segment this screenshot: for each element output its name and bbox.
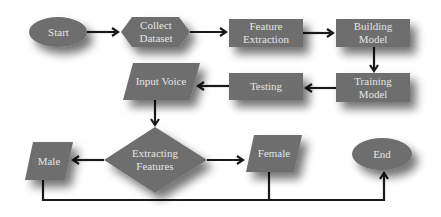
collect-dataset-label: Collect Dataset [125,17,187,47]
edges [43,32,384,200]
building-model-label: Building Model [336,19,410,47]
start-label: Start [30,18,87,47]
testing-label: Testing [229,73,303,100]
edge-male-end [43,173,384,200]
end-label: End [352,138,412,170]
flowchart-canvas: Start Collect Dataset Feature Extraction… [0,0,441,217]
extracting-features-label: Extracting Features [118,140,192,180]
training-model-label: Training Model [336,73,410,102]
female-label: Female [248,135,300,172]
feature-extraction-label: Feature Extraction [229,19,303,47]
male-label: Male [27,142,71,180]
input-voice-label: Input Voice [125,63,197,100]
